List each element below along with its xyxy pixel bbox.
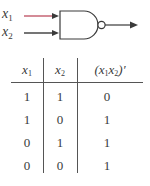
table-row-4-x1: 0 <box>12 159 42 173</box>
table-row-1-x1: 1 <box>12 90 42 104</box>
input-2-label: x2 <box>2 25 13 43</box>
input-1-subscript: 1 <box>8 13 13 23</box>
column-divider-2 <box>77 58 78 173</box>
header-out-close: )′ <box>118 62 125 77</box>
input-1-label: x1 <box>2 7 13 25</box>
table-row-1-out: 0 <box>92 90 122 104</box>
table-row-2-out: 1 <box>92 113 122 127</box>
table-row-3-x1: 0 <box>12 136 42 150</box>
header-x1: x1 <box>12 63 42 81</box>
header-nand-output: (x1x2)′ <box>82 63 138 81</box>
header-x1-sub: 1 <box>28 69 32 78</box>
nand-gate-diagram <box>0 0 150 50</box>
truth-table: x1 x2 (x1x2)′ 1 1 0 1 0 1 0 1 1 0 0 1 <box>0 56 150 176</box>
input-2-arrow-icon <box>52 30 59 36</box>
header-out-open: (x <box>94 62 104 77</box>
output-arrow-icon <box>130 22 138 29</box>
table-row-2-x1: 1 <box>12 113 42 127</box>
column-divider-1 <box>43 58 44 173</box>
header-x2: x2 <box>45 63 75 81</box>
table-row-3-out: 1 <box>92 136 122 150</box>
table-row-4-out: 1 <box>92 159 122 173</box>
nand-gate-body <box>60 11 98 39</box>
inversion-bubble <box>98 21 105 28</box>
header-x2-sub: 2 <box>61 69 65 78</box>
table-row-2-x2: 0 <box>45 113 75 127</box>
input-1-arrow-icon <box>52 13 59 19</box>
table-row-3-x2: 1 <box>45 136 75 150</box>
table-row-1-x2: 1 <box>45 90 75 104</box>
input-2-subscript: 2 <box>8 31 13 41</box>
header-rule <box>11 82 143 83</box>
table-row-4-x2: 0 <box>45 159 75 173</box>
